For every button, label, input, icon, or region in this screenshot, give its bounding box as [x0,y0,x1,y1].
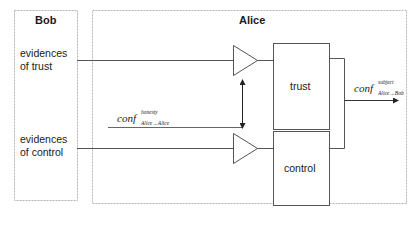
output-conf-sub: Alice→Bob [378,90,404,96]
honesty-conf-sub: Alice→Alice [141,120,169,126]
trust-evidence-line1: evidences [20,47,67,60]
alice-title: Alice [239,14,265,26]
honesty-confidence-label: conf honesty Alice→Alice [117,112,136,124]
diagram-lines [0,0,418,233]
bob-container [15,11,78,201]
control-evidence-line2: of control [20,146,67,159]
bob-title: Bob [35,14,56,26]
trust-evidence-line2: of trust [20,60,67,73]
output-conf-base: conf [354,82,373,94]
alice-container [93,11,407,204]
control-amplifier [234,134,258,164]
output-conf-sup: subject [378,79,394,85]
trust-evidence-label: evidences of trust [20,47,67,73]
control-evidence-line1: evidences [20,133,67,146]
output-combiner [329,59,345,149]
control-block-label: control [284,162,316,174]
output-confidence-label: conf subject Alice→Bob [354,82,373,94]
control-evidence-label: evidences of control [20,133,67,159]
honesty-conf-base: conf [117,112,136,124]
trust-block-label: trust [290,80,310,92]
trust-amplifier [234,46,258,76]
honesty-conf-sup: honesty [141,109,158,115]
